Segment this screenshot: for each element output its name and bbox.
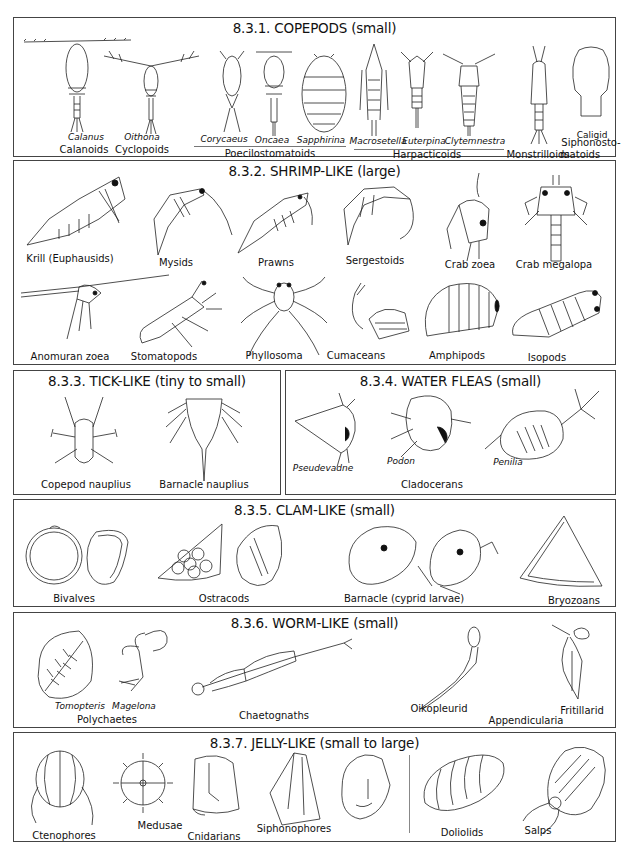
poecilostomatoids-underline [194,146,346,147]
group-appendicularia: Appendicularia [489,715,564,726]
label-copepod-nauplius: Copepod nauplius [41,479,131,490]
label-crab-zoea: Crab zoea [445,259,495,270]
label-mysids: Mysids [159,257,193,268]
group-cnidarians: Cnidarians [187,831,240,842]
group-cyclopoids: Cyclopoids [115,144,169,155]
species-euterpina: Euterpina [402,136,446,146]
group-poecilostomatoids: Poecilostomatoids [225,148,316,159]
ostracod-drawing [154,518,294,598]
label-sergestoids: Sergestoids [346,255,405,266]
species-oithona: Oithona [124,132,160,142]
pseudevadne-drawing [291,391,381,471]
species-sapphirina: Sapphirina [297,135,345,145]
species-pseudevadne: Pseudevadne [293,463,353,473]
label-anomuran-zoea: Anomuran zoea [31,351,110,362]
label-stomatopods: Stomatopods [131,351,197,362]
species-podon: Podon [387,456,415,466]
copepod-nauplius-drawing [49,393,119,483]
panel-clam-like: 8.3.5. CLAM-LIKE (small) Bivalves Ostrac… [13,499,616,607]
panel-tick-like: 8.3.3. TICK-LIKE (tiny to small) Copepod… [13,370,281,495]
barnacle-nauplius-drawing [164,393,244,488]
species-magelona: Magelona [112,701,156,711]
panel-water-fleas: 8.3.4. WATER FLEAS (small) Pseudevadne P… [285,370,616,495]
chaetognath-drawing [184,633,364,703]
oithona-drawing [99,46,209,141]
cumacean-drawing [339,279,419,349]
group-harpacticoids: Harpacticoids [393,149,461,160]
group-polychaetes: Polychaetes [77,714,137,725]
label-isopods: Isopods [528,352,566,363]
label-amphipods: Amphipods [429,350,485,361]
euterpina-drawing [397,44,437,134]
clytemnestra-drawing [439,44,499,144]
species-tomopteris: Tomopteris [55,701,105,711]
panel-jelly-like: 8.3.7. JELLY-LIKE (small to large) Cteno… [13,732,616,842]
caligid-drawing [569,42,614,127]
label-doliolids: Doliolids [441,827,484,838]
group-siphonostomatoids-line2: matoids [560,149,600,160]
group-siphonostomatoids-line1: Siphonosto- [561,137,620,148]
group-cladocerans: Cladocerans [401,479,463,490]
isopod-drawing [509,279,609,349]
crab-zoea-drawing [439,169,499,264]
species-clytemnestra: Clytemnestra [445,136,506,146]
label-prawns: Prawns [258,257,294,268]
label-bivalves: Bivalves [53,593,95,604]
siphonophore-drawing [264,749,394,829]
label-salps: Salps [525,825,552,836]
label-crab-megalopa: Crab megalopa [516,259,593,270]
species-penilia: Penilia [493,457,523,467]
crab-megalopa-drawing [519,171,594,271]
label-oikopleurid: Oikopleurid [410,703,467,714]
panel-copepods: 8.3.1. COPEPODS (small) Calanus Oithona … [13,17,616,157]
prawn-drawing [234,181,319,256]
panel-worm-like: 8.3.6. WORM-LIKE (small) Tomopteris Mage… [13,612,616,728]
panel-shrimp-like: 8.3.2. SHRIMP-LIKE (large) Krill (Euphau… [13,160,616,365]
tomopteris-drawing [29,627,99,702]
section-divider [409,755,410,833]
macrosetella-drawing [354,40,394,140]
label-siphonophores: Siphonophores [257,823,331,834]
label-ostracods: Ostracods [199,593,249,604]
fritillarid-drawing [544,621,604,706]
label-cyprid: Barnacle (cyprid larvae) [344,593,464,604]
label-barnacle-nauplius: Barnacle nauplius [159,479,248,490]
stomatopod-drawing [132,273,227,353]
species-corycaeus: Corycaeus [200,134,247,144]
species-calanus: Calanus [68,132,104,142]
cyprid-larva-drawing [344,520,504,595]
monstrilloid-drawing [519,42,559,152]
label-bryozoans: Bryozoans [548,595,600,606]
label-fritillarid: Fritillarid [560,705,604,716]
phyllosoma-drawing [239,273,329,358]
species-macrosetella: Macrosetella [349,136,406,146]
mysid-drawing [144,175,234,260]
sapphirina-drawing [299,52,349,137]
panel-title: 8.3.6. WORM-LIKE (small) [14,615,615,631]
label-cumaceans: Cumaceans [327,350,386,361]
ctenophore-drawing [22,747,102,827]
sergestoid-drawing [334,179,424,249]
label-phyllosoma: Phyllosoma [245,350,302,361]
oncaea-drawing [252,46,296,141]
bivalve-drawing [24,520,144,590]
krill-drawing [19,169,129,249]
label-chaetognaths: Chaetognaths [239,710,309,721]
magelona-drawing [109,625,179,705]
label-medusae: Medusae [138,820,183,831]
corycaeus-drawing [212,46,252,136]
medusa-drawing [109,751,249,821]
group-calanoids: Calanoids [60,144,109,155]
salp-drawing [519,743,614,835]
panel-title: 8.3.3. TICK-LIKE (tiny to small) [14,373,280,389]
bryozoan-drawing [514,512,609,597]
label-krill: Krill (Euphausids) [26,253,113,264]
amphipod-drawing [419,276,509,351]
label-ctenophores: Ctenophores [32,830,96,841]
doliolid-drawing [419,749,509,819]
species-oncaea: Oncaea [255,135,289,145]
oikopleurid-drawing [414,623,494,713]
